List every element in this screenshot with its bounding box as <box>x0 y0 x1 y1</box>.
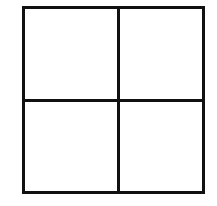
grid-cell-top-left <box>25 9 117 99</box>
grid-cell-bottom-left <box>25 102 117 191</box>
horizontal-divider <box>22 99 205 102</box>
grid-cell-top-right <box>120 9 202 99</box>
two-by-two-grid <box>22 6 205 194</box>
grid-cell-bottom-right <box>120 102 202 191</box>
